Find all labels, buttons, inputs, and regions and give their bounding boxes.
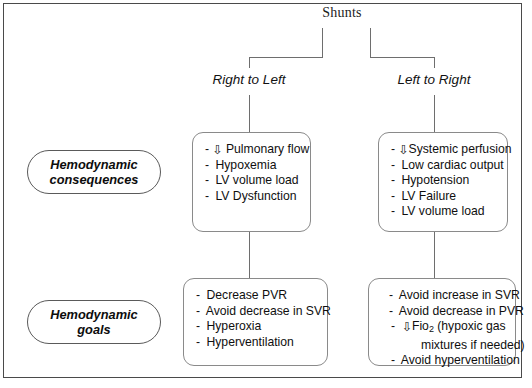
row-label-text: Hemodynamic consequences (50, 157, 139, 187)
list-item: - Hypotension (391, 173, 497, 189)
bullet-dash: - (196, 304, 200, 318)
bullet-dash: - (205, 189, 209, 203)
bullet-dash: - (391, 173, 395, 187)
box-consequences-right-to-left: -⇩ Pulmonary flow - Hypoxemia - LV volum… (192, 132, 311, 232)
row-label-line1: Hemodynamic (50, 307, 137, 322)
down-arrow-icon: ⇩ (212, 144, 222, 157)
list-item: - LV Dysfunction (205, 189, 300, 205)
branch-label-left-to-right: Left to Right (374, 72, 494, 87)
diagram-title: Shunts (300, 5, 384, 21)
box-goals-right-to-left: - Decrease PVR - Avoid decrease in SVR -… (183, 278, 328, 366)
connector-title-left-stub (322, 28, 323, 57)
connector-right-label-to-consequences (434, 95, 435, 132)
list-item-text: Hypoxemia (215, 158, 276, 172)
bullet-dash: - (389, 288, 393, 302)
connector-branch-right-down (434, 57, 435, 68)
list-item: - LV volume load (391, 204, 497, 220)
box-consequences-left-to-right: -⇩Systemic perfusion - Low cardiac outpu… (378, 132, 508, 232)
row-label-line2: consequences (50, 172, 139, 187)
list-item-text: Hyperoxia (206, 319, 261, 333)
list-item: - Avoid hyperventilation (377, 353, 505, 369)
connector-title-left-horizontal (249, 57, 323, 58)
list-item: - Avoid decrease in PVR (377, 304, 505, 320)
bullet-dash: - (391, 204, 395, 218)
down-arrow-icon: ⇩ (398, 144, 408, 157)
list-item-text: Systemic perfusion (409, 142, 512, 156)
list-item-text: Decrease PVR (206, 288, 287, 302)
bullet-dash: - (205, 158, 209, 172)
list-item: -⇩Systemic perfusion (391, 142, 497, 158)
consequences-right-to-left-list: -⇩ Pulmonary flow - Hypoxemia - LV volum… (205, 142, 300, 204)
connector-left-consequences-to-goals (249, 232, 250, 278)
goals-right-to-left-list: - Decrease PVR - Avoid decrease in SVR -… (196, 288, 317, 350)
row-label-text: Hemodynamic goals (50, 307, 137, 337)
list-item: -⇩ Pulmonary flow (205, 142, 300, 158)
row-label-hemodynamic-goals: Hemodynamic goals (27, 300, 161, 344)
bullet-dash: - (391, 142, 395, 156)
list-item-text: Pulmonary flow (226, 142, 309, 156)
bullet-dash: - (196, 319, 200, 333)
list-item-text: Avoid decrease in SVR (206, 304, 331, 318)
list-item-text: Avoid hyperventilation (401, 353, 520, 367)
list-item-text: LV volume load (401, 204, 484, 218)
list-item: - LV volume load (205, 173, 300, 189)
goals-left-to-right-list: - Avoid increase in SVR - Avoid decrease… (377, 288, 505, 369)
list-item-text: Hyperventilation (206, 335, 293, 349)
list-item-text: Avoid increase in SVR (399, 288, 520, 302)
list-item-text: mixtures if needed) (421, 338, 525, 352)
list-item-text: Hypotension (401, 173, 469, 187)
bullet-dash: - (205, 173, 209, 187)
list-item-text: Low cardiac output (401, 158, 503, 172)
list-item: - LV Failure (391, 189, 497, 205)
bullet-dash: - (389, 304, 393, 318)
list-item: - Avoid increase in SVR (377, 288, 505, 304)
branch-label-right-to-left: Right to Left (189, 72, 309, 87)
bullet-dash: - (391, 158, 395, 172)
list-item-text: LV Failure (401, 189, 456, 203)
bullet-dash: - (391, 319, 395, 333)
row-label-line1: Hemodynamic (50, 157, 137, 172)
connector-title-right-horizontal (370, 57, 435, 58)
list-item: - Decrease PVR (196, 288, 317, 304)
bullet-dash: - (205, 142, 209, 156)
diagram-canvas: Shunts Right to Left Left to Right Hemod… (0, 0, 532, 388)
list-item-text: LV Dysfunction (215, 189, 296, 203)
bullet-dash: - (196, 335, 200, 349)
list-item: - ⇩Fio2 (hypoxic gas (377, 319, 505, 338)
bullet-dash: - (391, 189, 395, 203)
connector-title-right-stub (370, 28, 371, 57)
bullet-dash: - (196, 288, 200, 302)
down-arrow-icon: ⇩ (401, 321, 411, 334)
connector-right-consequences-to-goals (434, 232, 435, 278)
list-item-text: Avoid decrease in PVR (399, 304, 524, 318)
connector-left-label-to-consequences (249, 95, 250, 132)
bullet-dash: - (391, 353, 395, 367)
list-item: - Avoid decrease in SVR (196, 304, 317, 320)
list-item: - Hyperventilation (196, 335, 317, 351)
list-item: mixtures if needed) (377, 338, 505, 354)
row-label-hemodynamic-consequences: Hemodynamic consequences (27, 150, 161, 194)
list-item-text: Fio (412, 319, 429, 333)
consequences-left-to-right-list: -⇩Systemic perfusion - Low cardiac outpu… (391, 142, 497, 220)
list-item-text-post: (hypoxic gas (434, 319, 506, 333)
connector-branch-left-down (249, 57, 250, 68)
box-goals-left-to-right: - Avoid increase in SVR - Avoid decrease… (368, 278, 516, 366)
list-item-text: LV volume load (215, 173, 298, 187)
list-item: - Hyperoxia (196, 319, 317, 335)
list-item: - Hypoxemia (205, 158, 300, 174)
row-label-line2: goals (77, 322, 110, 337)
list-item: - Low cardiac output (391, 158, 497, 174)
